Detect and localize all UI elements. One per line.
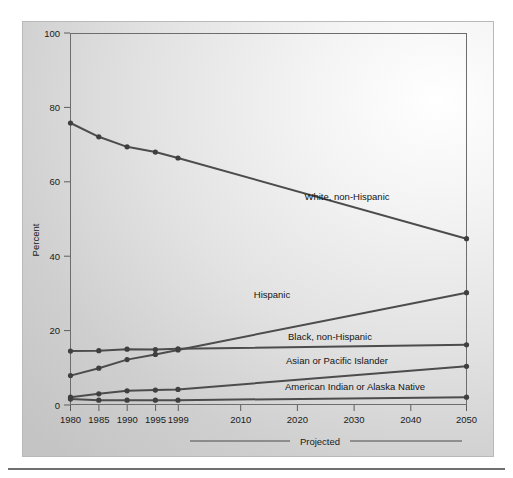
data-point: [464, 395, 469, 400]
y-tick-group-0: 0: [55, 400, 70, 411]
y-tick-label: 0: [55, 400, 60, 411]
x-tick-label: 2030: [344, 414, 365, 425]
x-tick-label: 1980: [60, 414, 81, 425]
x-axis: 1980 1985 1990 1995 1999 2010: [60, 405, 477, 425]
projected-label: Projected: [300, 436, 340, 447]
x-tick-label: 1985: [88, 414, 109, 425]
y-tick-group-80: 80: [49, 102, 70, 113]
y-tick-group-100: 100: [44, 28, 70, 39]
series-black-non-hispanic: [68, 342, 469, 354]
data-point: [153, 347, 158, 352]
x-tick-group-2010: 2010: [230, 405, 251, 425]
series-hispanic: [68, 290, 469, 378]
data-point: [153, 352, 158, 357]
series-line: [71, 123, 467, 239]
x-tick-group-1980: 1980: [60, 405, 81, 425]
figure-container: 100 80 60 40 20 0 Perce: [0, 0, 513, 478]
data-point: [68, 373, 73, 378]
data-point: [464, 290, 469, 295]
x-tick-group-2050: 2050: [456, 405, 477, 425]
data-point: [96, 391, 101, 396]
x-tick-group-2030: 2030: [344, 405, 365, 425]
x-tick-group-1985: 1985: [88, 405, 109, 425]
x-tick-group-2040: 2040: [400, 405, 421, 425]
x-tick-group-1990: 1990: [117, 405, 138, 425]
data-point: [175, 398, 180, 403]
x-tick-label: 2040: [400, 414, 421, 425]
data-point: [124, 144, 129, 149]
series-label-asian: Asian or Pacific Islander: [286, 355, 388, 366]
series-line: [71, 345, 467, 351]
x-tick-group-1999: 1999: [168, 405, 189, 425]
x-tick-label: 2050: [456, 414, 477, 425]
data-point: [124, 347, 129, 352]
series-label-hispanic: Hispanic: [254, 289, 291, 300]
y-tick-group-40: 40: [49, 251, 70, 262]
data-point: [96, 366, 101, 371]
series-label-black: Black, non-Hispanic: [288, 331, 372, 342]
data-point: [68, 120, 73, 125]
x-tick-label: 2010: [230, 414, 251, 425]
figure-bottom-rule: [8, 468, 505, 470]
data-point: [124, 398, 129, 403]
y-tick-group-20: 20: [49, 325, 70, 336]
data-point: [464, 236, 469, 241]
x-tick-group-1995: 1995: [145, 405, 166, 425]
data-point: [175, 346, 180, 351]
series-layer: [68, 120, 469, 402]
series-label-american-indian: American Indian or Alaska Native: [285, 381, 425, 392]
data-point: [175, 387, 180, 392]
data-point: [153, 398, 158, 403]
data-point: [124, 357, 129, 362]
x-tick-label: 1999: [168, 414, 189, 425]
data-point: [464, 364, 469, 369]
x-tick-label: 2020: [287, 414, 308, 425]
y-tick-label: 60: [49, 176, 60, 187]
y-tick-label: 20: [49, 325, 60, 336]
data-point: [124, 388, 129, 393]
y-tick-label: 100: [44, 28, 60, 39]
y-axis-title: Percent: [30, 223, 41, 256]
series-american-indian-or-alaska-native: [68, 395, 469, 403]
x-tick-group-2020: 2020: [287, 405, 308, 425]
y-tick-label: 80: [49, 102, 60, 113]
y-tick-label: 40: [49, 251, 60, 262]
projected-annotation: Projected: [190, 436, 462, 447]
data-point: [175, 155, 180, 160]
data-point: [153, 388, 158, 393]
line-chart: 100 80 60 40 20 0 Perce: [0, 0, 513, 478]
data-point: [464, 342, 469, 347]
x-tick-label: 1990: [117, 414, 138, 425]
series-line: [71, 293, 467, 376]
data-point: [96, 398, 101, 403]
x-tick-label: 1995: [145, 414, 166, 425]
series-label-white: White, non-Hispanic: [304, 191, 389, 202]
y-tick-group-60: 60: [49, 176, 70, 187]
data-point: [68, 348, 73, 353]
series-line: [71, 397, 467, 400]
data-point: [96, 348, 101, 353]
y-axis: 100 80 60 40 20 0: [44, 28, 70, 411]
data-point: [153, 149, 158, 154]
series-white-non-hispanic: [68, 120, 469, 241]
data-point: [68, 396, 73, 401]
data-point: [96, 134, 101, 139]
